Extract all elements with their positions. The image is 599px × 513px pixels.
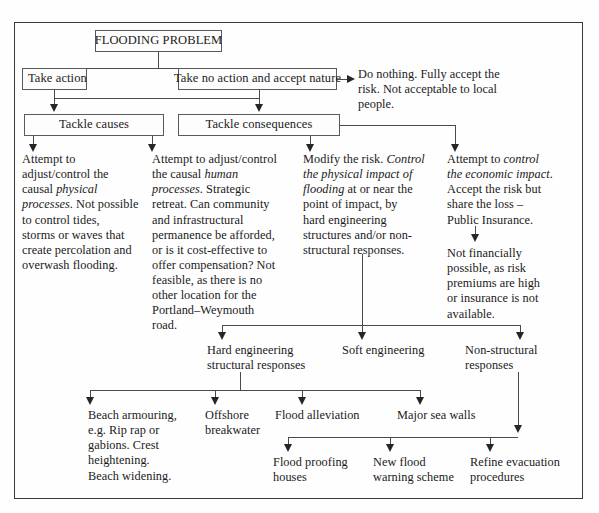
- text-economic-impact: Attempt to control the economic impact. …: [447, 152, 579, 228]
- text-do-nothing: Do nothing. Fully accept the risk. Not a…: [358, 67, 588, 112]
- arrowhead-flood-proofing-houses: [284, 444, 292, 452]
- arrowhead-refine-evacuation-procedures: [486, 444, 494, 452]
- arrowhead-flood-alleviation: [298, 397, 306, 405]
- connector-title-stem: [158, 52, 159, 68]
- text-not-financially-possible: Not financially possible, as risk premiu…: [447, 246, 579, 322]
- text-modify-the-risk: Modify the risk. Control the physical im…: [303, 152, 443, 258]
- arrowhead-tackle-consequences: [255, 104, 263, 112]
- text-non-structural: Non-structural responses: [465, 343, 575, 373]
- arrowhead-modify-risk: [306, 144, 314, 152]
- arrowhead-physical-processes: [29, 144, 37, 152]
- connector-take-action-stem: [54, 90, 55, 98]
- arrowhead-major-sea-walls: [416, 397, 424, 405]
- connector-consequences-elbow: [340, 125, 455, 126]
- arrowhead-tackle-causes: [50, 104, 58, 112]
- arrowhead-hard-engineering: [218, 332, 226, 340]
- arrowhead-economic-impact: [451, 144, 459, 152]
- text-beach-armouring: Beach armouring, e.g. Rip rap or gabions…: [88, 408, 208, 484]
- flowchart-canvas: FLOODING PROBLEM Take action Take no act…: [0, 0, 599, 513]
- connector-non-structural-stem: [518, 372, 519, 428]
- arrowhead-soft-engineering: [358, 332, 366, 340]
- text-flood-proofing-houses: Flood proofing houses: [273, 455, 383, 485]
- box-tackle-consequences: Tackle consequences: [178, 114, 340, 136]
- text-major-sea-walls: Major sea walls: [397, 408, 507, 423]
- arrowhead-beach-armouring: [86, 397, 94, 405]
- arrowhead-new-flood-warning-scheme: [386, 444, 394, 452]
- arrowhead-non-structural: [516, 332, 524, 340]
- arrowhead-non-structural-down: [514, 425, 522, 433]
- box-flooding-problem: FLOODING PROBLEM: [95, 30, 222, 52]
- connector-level5-bar: [90, 390, 420, 391]
- text-human-processes: Attempt to adjust/control the causal hum…: [152, 152, 297, 334]
- arrowhead-offshore-breakwater: [211, 397, 219, 405]
- text-hard-engineering: Hard engineering structural responses: [207, 343, 332, 373]
- box-tackle-causes: Tackle causes: [24, 114, 164, 136]
- text-refine-evacuation-procedures: Refine evacuation procedures: [470, 455, 590, 485]
- connector-hard-engineering-stem: [240, 372, 241, 390]
- connector-modify-risk-stem: [362, 254, 363, 325]
- text-physical-processes: Attempt to adjust/control the causal phy…: [22, 152, 150, 273]
- arrowhead-do-nothing: [347, 75, 355, 83]
- connector-row2-bar: [54, 98, 259, 99]
- arrowhead-not-financially-possible: [471, 234, 479, 242]
- connector-level4-bar: [222, 325, 520, 326]
- connector-take-no-action-stem: [259, 90, 260, 98]
- box-take-no-action: Take no action and accept nature: [178, 68, 337, 90]
- connector-level6-bar: [288, 437, 518, 438]
- arrowhead-human-processes: [148, 144, 156, 152]
- text-flood-alleviation: Flood alleviation: [275, 408, 390, 423]
- box-take-action: Take action: [22, 68, 87, 90]
- text-soft-engineering: Soft engineering: [342, 343, 452, 358]
